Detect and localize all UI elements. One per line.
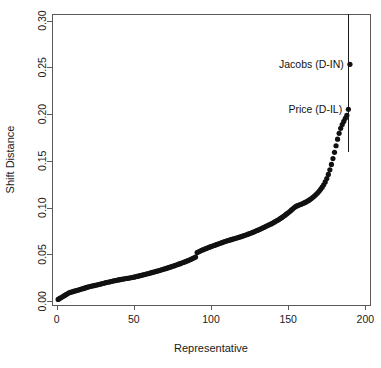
- x-tick-label: 50: [128, 313, 140, 325]
- data-point: [330, 156, 335, 161]
- x-tick-label: 0: [54, 313, 60, 325]
- data-point: [337, 131, 342, 136]
- x-tick-label: 200: [357, 313, 375, 325]
- data-point: [326, 172, 331, 177]
- x-tick-label: 150: [279, 313, 297, 325]
- data-point: [327, 167, 332, 172]
- y-tick-label: 0.20: [36, 104, 48, 125]
- data-point: [193, 254, 198, 259]
- data-point: [335, 137, 340, 142]
- y-tick-label: 0.05: [36, 244, 48, 265]
- data-point: [329, 162, 334, 167]
- y-tick-label: 0.25: [36, 57, 48, 78]
- annotation-label: Jacobs (D-IN): [279, 58, 344, 70]
- data-point-group: [56, 62, 353, 302]
- y-tick-label: 0.00: [36, 291, 48, 312]
- data-point: [344, 113, 349, 118]
- scatter-plot-svg: 0501001502000.000.050.100.150.200.250.30…: [0, 0, 381, 368]
- chart-figure: 0501001502000.000.050.100.150.200.250.30…: [0, 0, 381, 368]
- data-point: [346, 107, 351, 112]
- y-axis-title: Shift Distance: [4, 126, 16, 194]
- annotation-label: Price (D-IL): [289, 103, 343, 115]
- y-tick-label: 0.30: [36, 10, 48, 31]
- data-point: [332, 150, 337, 155]
- data-point: [347, 62, 352, 67]
- x-tick-label: 100: [202, 313, 220, 325]
- y-tick-label: 0.10: [36, 197, 48, 218]
- x-axis-title: Representative: [174, 342, 248, 354]
- data-point: [333, 143, 338, 148]
- y-tick-label: 0.15: [36, 151, 48, 172]
